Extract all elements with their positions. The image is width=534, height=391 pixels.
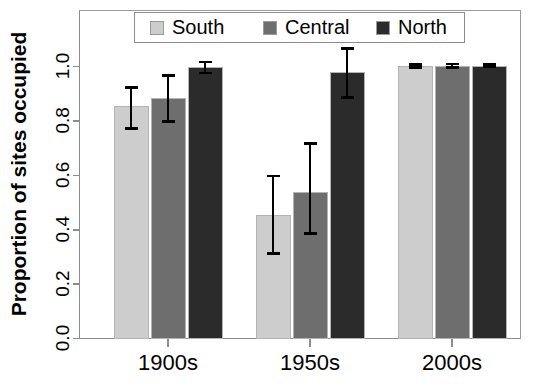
y-tick-label: 0.8 — [52, 107, 73, 133]
x-tick-label-2000s: 2000s — [422, 350, 482, 375]
bar-central-1900s — [151, 99, 185, 338]
bar-central-2000s — [435, 66, 469, 338]
bar-south-1900s — [114, 107, 148, 338]
legend-swatch-south — [150, 21, 163, 34]
bars-group — [114, 48, 506, 338]
legend-label-south: South — [172, 16, 224, 38]
y-tick-label: 0.4 — [52, 216, 73, 243]
legend-items: SouthCentralNorth — [150, 16, 447, 38]
y-axis-title: Proportion of sites occupied — [7, 32, 30, 317]
y-tick-label: 0.6 — [52, 162, 73, 188]
legend-swatch-central — [263, 21, 276, 34]
x-tick-label-1950s: 1950s — [280, 350, 340, 375]
bar-north-1950s — [330, 73, 364, 338]
legend-label-north: North — [398, 16, 447, 38]
y-tick-group: 0.00.20.40.60.81.0 — [52, 53, 80, 351]
bar-south-2000s — [398, 66, 432, 338]
y-tick-label: 0.2 — [52, 270, 73, 296]
bar-north-2000s — [472, 66, 506, 338]
legend: SouthCentralNorth — [135, 13, 465, 43]
y-tick-label: 0.0 — [52, 325, 73, 351]
bar-chart-figure: 0.00.20.40.60.81.0 Proportion of sites o… — [0, 0, 534, 391]
y-tick-label: 1.0 — [52, 53, 73, 79]
y-axis-label: Proportion of sites occupied — [7, 32, 30, 317]
x-tick-group: 1900s1950s2000s — [138, 339, 482, 375]
bar-north-1900s — [188, 67, 222, 338]
legend-label-central: Central — [285, 16, 349, 38]
x-tick-label-1900s: 1900s — [138, 350, 198, 375]
legend-swatch-north — [376, 21, 389, 34]
chart-canvas: 0.00.20.40.60.81.0 Proportion of sites o… — [0, 0, 534, 391]
